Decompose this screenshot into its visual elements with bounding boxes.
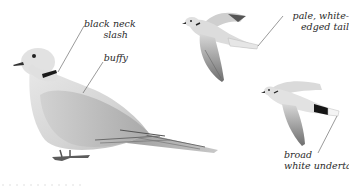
leader-undertail: [318, 116, 337, 153]
perched-eye: [32, 54, 36, 58]
label-line: white undertail: [284, 161, 349, 172]
leader-neck: [58, 26, 84, 72]
label-line: slash: [84, 30, 128, 41]
perched-feet: [52, 155, 90, 161]
leader-buffy: [83, 62, 103, 93]
label-broad-white-undertail: broad white undertail: [284, 150, 349, 171]
label-line: black neck: [84, 19, 128, 30]
leader-tail-upper: [258, 16, 283, 46]
label-line: broad: [284, 150, 349, 161]
bottom-marks: [3, 184, 80, 186]
perched-dove: [13, 48, 218, 161]
label-buffy: buffy: [100, 53, 128, 64]
label-pale-white-edged-tail: pale, white- edged tail: [283, 11, 349, 32]
label-black-neck-slash: black neck slash: [84, 19, 128, 40]
label-line: buffy: [100, 53, 128, 64]
flying-dove-upper: [182, 13, 258, 82]
label-line: edged tail: [283, 22, 349, 33]
bird-plate: black neck slash buffy pale, white- edge…: [0, 0, 349, 186]
label-line: pale, white-: [283, 11, 349, 22]
flying-dove-under: [261, 81, 339, 146]
